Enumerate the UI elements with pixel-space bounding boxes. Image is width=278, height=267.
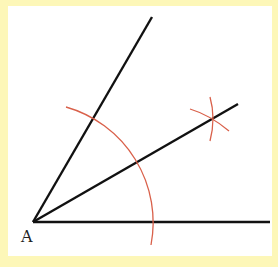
bisector-diagram [0, 0, 278, 267]
bisector-ray [33, 104, 238, 222]
upper-ray [33, 17, 152, 222]
main-arc [66, 107, 153, 245]
vertex-label-a: A [21, 227, 33, 246]
